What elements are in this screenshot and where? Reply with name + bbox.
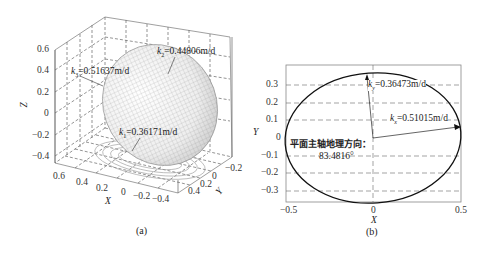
z-tick-0.4: 0.4 [37, 66, 49, 76]
b-y-tick-0: 0 [276, 133, 281, 143]
x-tick-neg0.2: −0.2 [133, 192, 150, 202]
z-tick-0.6: 0.6 [37, 45, 49, 55]
b-y-tick-neg0.1: −0.1 [261, 151, 278, 161]
x-tick-0.6: 0.6 [53, 172, 65, 182]
z-tick-0: 0 [44, 109, 49, 119]
x-tick-neg0.4: −0.4 [152, 195, 169, 205]
panel-a-caption: (a) [136, 226, 147, 236]
z-tick-neg0.4: −0.4 [32, 152, 49, 162]
z-tick-0.2: 0.2 [37, 88, 49, 98]
b-y-tick-neg0.3: −0.3 [261, 186, 278, 196]
ky-annotation: ky=0.36473m/d [368, 80, 426, 91]
y-tick-0.4: 0.4 [188, 187, 200, 197]
x-axis-label: X [105, 197, 111, 207]
x-tick-0.4: 0.4 [76, 178, 88, 188]
y-tick-0.2: 0.2 [200, 180, 212, 190]
k2-annotation: k2=0.44806m/d [157, 47, 215, 58]
figure-canvas [0, 0, 488, 256]
k1-annotation: k1=0.36171m/d [119, 128, 177, 139]
k3-annotation: k3=0.51637m/d [71, 67, 129, 78]
z-tick-neg0.2: −0.2 [32, 131, 49, 141]
x-tick-0: 0 [121, 188, 126, 198]
b-y-axis-label: Y [253, 128, 258, 138]
x-tick-0.2: 0.2 [96, 184, 108, 194]
b-y-tick-neg0.2: −0.2 [261, 168, 278, 178]
b-y-tick-0.3: 0.3 [266, 80, 278, 90]
b-x-axis-label: X [371, 216, 377, 226]
panel-b-caption: (b) [366, 227, 378, 237]
direction-value: 83.4816° [319, 152, 354, 162]
b-y-tick-0.2: 0.2 [266, 98, 278, 108]
b-x-tick-neg0.5: −0.5 [280, 206, 297, 216]
kx-annotation: kx=0.51015m/d [390, 114, 448, 125]
y-tick-0: 0 [212, 172, 217, 182]
y-tick-neg0.2: −0.2 [225, 164, 242, 174]
b-y-tick-0.1: 0.1 [266, 115, 278, 125]
z-axis-label: Z [20, 102, 30, 107]
b-x-tick-0.5: 0.5 [455, 206, 467, 216]
direction-label: 平面主轴地理方向： [290, 140, 371, 149]
